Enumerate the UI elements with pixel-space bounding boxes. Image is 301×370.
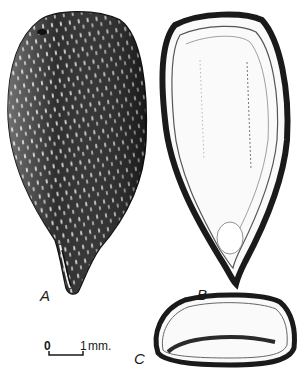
scale-start-label: 0 — [44, 339, 51, 353]
seed-section-b — [162, 15, 287, 284]
botanical-figure — [0, 0, 301, 370]
panel-label-c: C — [134, 350, 145, 367]
scale-bar — [49, 351, 83, 355]
scale-unit-label: mm. — [88, 339, 111, 353]
panel-label-b: B — [197, 286, 207, 303]
panel-label-a: A — [40, 287, 50, 304]
seed-exterior-a — [8, 12, 146, 294]
scale-end-label: 1 — [80, 339, 87, 353]
seed-cross-section-c — [156, 295, 294, 365]
